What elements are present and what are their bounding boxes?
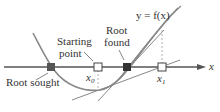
starting-point-leader	[84, 52, 93, 61]
x-axis-arrow-icon	[197, 64, 206, 70]
root-found-label-line2: found	[104, 37, 130, 48]
x0-label: x0	[86, 72, 94, 87]
curve-label-text: y = f(x)	[136, 9, 170, 21]
starting-point-label-line1: Starting	[57, 36, 92, 47]
x0-subscript: 0	[91, 77, 95, 85]
x-axis-label: x	[209, 61, 214, 72]
root-sought-label: Root sought	[6, 77, 59, 88]
starting-point-label-line2: point	[59, 48, 82, 59]
curve-label: y = f(x)	[136, 10, 170, 21]
newton-method-diagram	[0, 0, 220, 112]
root-sought-marker	[47, 63, 55, 71]
x1-marker	[158, 63, 166, 71]
x1-label: x1	[157, 73, 165, 88]
root-found-marker	[123, 63, 131, 71]
starting-point-marker	[94, 63, 102, 71]
root-found-leader	[119, 50, 124, 60]
x1-subscript: 1	[162, 78, 166, 86]
root-found-label-line1: Root	[106, 25, 127, 36]
